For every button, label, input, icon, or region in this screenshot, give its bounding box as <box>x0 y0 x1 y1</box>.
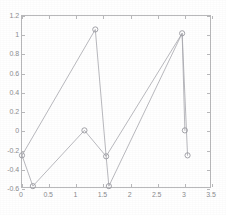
x-tick-mark-top <box>158 16 159 19</box>
y-tick-label: 0.8 <box>0 50 19 57</box>
series-line-2 <box>22 33 185 186</box>
x-tick-label: 1.5 <box>98 191 107 198</box>
y-tick-mark <box>22 131 25 132</box>
y-tick-mark <box>22 74 25 75</box>
y-tick-mark-right <box>207 35 210 36</box>
x-tick-label: 0 <box>19 191 23 198</box>
y-tick-mark-right <box>207 16 210 17</box>
y-tick-mark-right <box>207 74 210 75</box>
chart-plot-svg <box>22 16 212 189</box>
y-tick-label: -0.2 <box>0 146 19 153</box>
series-layer <box>22 29 188 186</box>
x-tick-label: 1 <box>73 191 77 198</box>
y-tick-mark <box>22 151 25 152</box>
x-tick-mark <box>49 184 50 187</box>
x-tick-mark-top <box>76 16 77 19</box>
y-tick-mark-right <box>207 54 210 55</box>
x-tick-mark <box>103 184 104 187</box>
y-tick-mark-right <box>207 189 210 190</box>
x-tick-label: 3.5 <box>206 191 215 198</box>
marker-layer <box>19 27 190 189</box>
y-tick-label: -0.4 <box>0 165 19 172</box>
x-tick-mark <box>131 184 132 187</box>
y-tick-mark <box>22 93 25 94</box>
x-tick-mark <box>158 184 159 187</box>
y-tick-mark <box>22 112 25 113</box>
y-tick-mark-right <box>207 112 210 113</box>
y-tick-mark <box>22 54 25 55</box>
y-tick-mark-right <box>207 170 210 171</box>
x-tick-mark <box>185 184 186 187</box>
y-tick-mark <box>22 170 25 171</box>
y-tick-label: -0.6 <box>0 185 19 192</box>
x-tick-mark-top <box>49 16 50 19</box>
x-tick-label: 2.5 <box>152 191 161 198</box>
plot-area <box>21 15 211 188</box>
chart-figure: -0.6-0.4-0.200.20.40.60.811.2 00.511.522… <box>0 0 226 215</box>
y-tick-mark <box>22 35 25 36</box>
y-tick-label: 1 <box>0 31 19 38</box>
y-tick-label: 0 <box>0 127 19 134</box>
y-tick-mark-right <box>207 151 210 152</box>
x-tick-mark-top <box>212 16 213 19</box>
y-tick-label: 0.4 <box>0 88 19 95</box>
x-tick-mark <box>22 184 23 187</box>
x-tick-label: 0.5 <box>43 191 52 198</box>
series-line-1 <box>22 29 188 156</box>
y-tick-label: 0.2 <box>0 108 19 115</box>
x-tick-mark-top <box>103 16 104 19</box>
y-tick-mark-right <box>207 131 210 132</box>
x-tick-label: 2 <box>128 191 132 198</box>
x-tick-mark-top <box>131 16 132 19</box>
y-tick-mark-right <box>207 93 210 94</box>
x-tick-mark <box>212 184 213 187</box>
y-tick-mark <box>22 189 25 190</box>
x-tick-label: 3 <box>182 191 186 198</box>
x-tick-mark <box>76 184 77 187</box>
x-tick-mark-top <box>185 16 186 19</box>
y-tick-label: 1.2 <box>0 12 19 19</box>
y-tick-label: 0.6 <box>0 69 19 76</box>
x-tick-mark-top <box>22 16 23 19</box>
